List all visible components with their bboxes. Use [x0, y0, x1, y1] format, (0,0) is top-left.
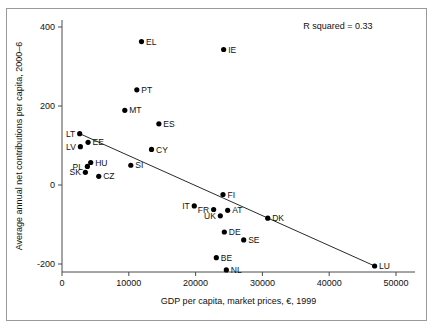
- y-tick-label: 200: [40, 101, 55, 111]
- data-point-fi: [220, 192, 225, 197]
- x-tick-label: 0: [59, 278, 64, 288]
- point-label-lt: LT: [66, 129, 75, 139]
- point-label-uk: UK: [204, 211, 216, 221]
- data-point-pl: [85, 164, 90, 169]
- data-point-el: [139, 39, 144, 44]
- data-point-mt: [122, 108, 127, 113]
- point-label-mt: MT: [129, 105, 141, 115]
- axes: -200020040001000020000300004000050000: [37, 20, 415, 288]
- point-label-ie: IE: [228, 45, 236, 55]
- point-label-cz: CZ: [103, 171, 114, 181]
- data-point-es: [156, 121, 161, 126]
- data-point-pt: [134, 87, 139, 92]
- point-label-ee: EE: [93, 137, 105, 147]
- point-label-at: AT: [232, 205, 242, 215]
- point-label-es: ES: [163, 119, 175, 129]
- data-point-cy: [149, 147, 154, 152]
- figure-container: -200020040001000020000300004000050000 EL…: [0, 0, 435, 333]
- x-tick-label: 40000: [317, 278, 342, 288]
- data-point-cz: [96, 174, 101, 179]
- r-squared-annotation: R squared = 0.33: [303, 21, 372, 31]
- trend-line: [80, 134, 375, 266]
- x-tick-label: 50000: [383, 278, 408, 288]
- y-tick-label: -200: [37, 259, 55, 269]
- point-label-dk: DK: [272, 213, 284, 223]
- data-point-lt: [77, 131, 82, 136]
- axis-titles: GDP per capita, market prices, €, 1999Av…: [14, 42, 316, 306]
- point-label-nl: NL: [231, 265, 242, 275]
- point-label-se: SE: [248, 235, 260, 245]
- point-label-cy: CY: [156, 145, 168, 155]
- data-point-uk: [218, 213, 223, 218]
- point-label-pt: PT: [141, 85, 152, 95]
- data-point-dk: [265, 216, 270, 221]
- point-label-hu: HU: [95, 158, 107, 168]
- data-point-ee: [85, 140, 90, 145]
- data-point-lu: [372, 263, 377, 268]
- x-tick-label: 20000: [183, 278, 208, 288]
- point-label-it: IT: [182, 201, 190, 211]
- point-label-el: EL: [146, 37, 157, 47]
- data-point-be: [214, 255, 219, 260]
- data-point-lv: [78, 144, 83, 149]
- point-label-lv: LV: [66, 142, 76, 152]
- point-label-si: SI: [135, 160, 143, 170]
- x-axis-title: GDP per capita, market prices, €, 1999: [161, 296, 316, 306]
- regression-line: [80, 134, 375, 266]
- y-axis-title: Average annual net contributions per cap…: [14, 42, 24, 251]
- data-points: ELIEPTMTESLTEELVCYHUPLSISKCZFIITFRATUKDK…: [66, 37, 390, 275]
- x-tick-label: 30000: [250, 278, 275, 288]
- data-point-si: [128, 163, 133, 168]
- scatter-plot: -200020040001000020000300004000050000 EL…: [0, 0, 435, 333]
- data-point-de: [222, 229, 227, 234]
- point-label-be: BE: [221, 253, 233, 263]
- point-label-sk: SK: [70, 167, 82, 177]
- data-point-it: [192, 203, 197, 208]
- point-label-de: DE: [229, 227, 241, 237]
- data-point-ie: [221, 47, 226, 52]
- y-tick-label: 400: [40, 22, 55, 32]
- data-point-sk: [83, 170, 88, 175]
- chart-annotations: R squared = 0.33: [303, 21, 372, 31]
- data-point-nl: [224, 267, 229, 272]
- data-point-at: [225, 208, 230, 213]
- point-label-lu: LU: [379, 261, 390, 271]
- x-tick-label: 10000: [116, 278, 141, 288]
- data-point-hu: [88, 160, 93, 165]
- data-point-se: [241, 237, 246, 242]
- y-tick-label: 0: [50, 180, 55, 190]
- point-label-fi: FI: [227, 190, 235, 200]
